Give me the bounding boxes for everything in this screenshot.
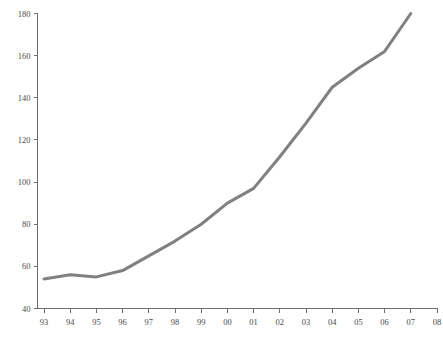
y-axis: 406080100120140160180: [18, 9, 38, 314]
x-axis: 93949596979899000102030405060708: [38, 309, 442, 327]
x-tick-label: 00: [223, 317, 232, 327]
y-tick-group: 406080100120140160180: [18, 9, 38, 314]
series-line-0: [44, 14, 411, 280]
y-tick-label: 40: [22, 304, 31, 314]
y-tick-label: 100: [18, 177, 31, 187]
x-tick-label: 96: [118, 317, 127, 327]
x-tick-label: 99: [197, 317, 206, 327]
x-tick-group: 93949596979899000102030405060708: [40, 309, 442, 327]
x-tick-label: 05: [354, 317, 363, 327]
y-tick-label: 140: [18, 93, 31, 103]
x-tick-label: 04: [328, 317, 337, 327]
x-tick-label: 07: [407, 317, 416, 327]
data-series-group: [44, 14, 411, 280]
y-tick-label: 80: [22, 219, 31, 229]
line-chart: 406080100120140160180 939495969798990001…: [0, 0, 443, 343]
x-tick-label: 03: [302, 317, 311, 327]
x-tick-label: 97: [145, 317, 154, 327]
x-tick-label: 08: [433, 317, 442, 327]
plot-area: 406080100120140160180 939495969798990001…: [0, 0, 443, 343]
x-tick-label: 98: [171, 317, 180, 327]
x-tick-label: 93: [40, 317, 49, 327]
y-tick-label: 120: [18, 135, 31, 145]
x-tick-label: 06: [380, 317, 389, 327]
x-tick-label: 02: [276, 317, 285, 327]
x-tick-label: 01: [249, 317, 258, 327]
y-tick-label: 160: [18, 51, 31, 61]
x-tick-label: 95: [92, 317, 101, 327]
y-tick-label: 60: [22, 261, 31, 271]
x-tick-label: 94: [66, 317, 75, 327]
y-tick-label: 180: [18, 9, 31, 19]
